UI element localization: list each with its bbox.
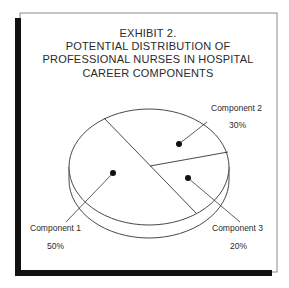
- marker-component-2: [176, 141, 182, 147]
- marker-component-3: [185, 175, 191, 181]
- title-line-2: POTENTIAL DISTRIBUTION OF: [66, 40, 231, 52]
- exhibit-figure: EXHIBIT 2. POTENTIAL DISTRIBUTION OF PRO…: [0, 0, 289, 288]
- value-component-3: 20%: [230, 241, 247, 251]
- value-component-1: 50%: [47, 241, 64, 251]
- pie-top-face: [69, 109, 229, 225]
- title-line-4: CAREER COMPONENTS: [82, 67, 213, 79]
- value-component-2: 30%: [229, 120, 246, 130]
- label-component-2: Component 2: [211, 103, 262, 113]
- title-line-3: PROFESSIONAL NURSES IN HOSPITAL: [43, 53, 254, 65]
- marker-component-1: [110, 170, 116, 176]
- pie-chart: EXHIBIT 2. POTENTIAL DISTRIBUTION OF PRO…: [0, 0, 289, 288]
- frame-shadow-bottom: [15, 270, 272, 276]
- label-component-3: Component 3: [212, 223, 263, 233]
- pie: [69, 109, 229, 238]
- frame-shadow-left: [15, 18, 21, 276]
- title-line-1: EXHIBIT 2.: [120, 27, 177, 39]
- label-component-1: Component 1: [30, 223, 81, 233]
